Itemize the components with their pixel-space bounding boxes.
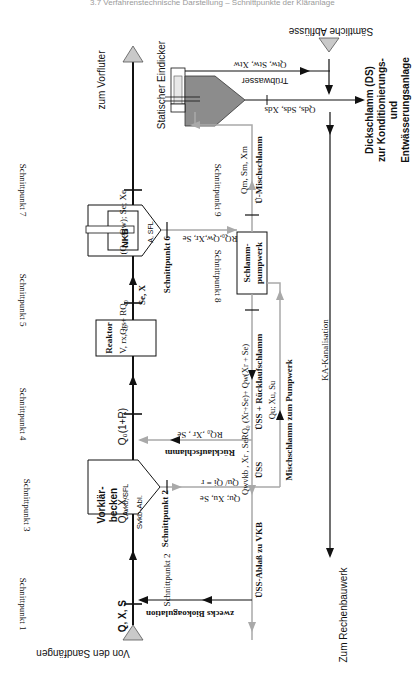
secondary-clarifier-area-label: A, SFL [147,221,154,243]
flow-return-plus-label: RQ₀ (Xr+Se)+ Qw(Xr + Se) [240,344,250,440]
arrow-down-icon [326,548,334,558]
schnittpunkt-2-bottom-label: Schnittpunkt 2 [162,554,172,607]
outlet-receiving-water-arrow-icon [123,46,143,62]
primary-clarifier-label-1: Vorklär- [96,486,107,523]
flow-mixed-to-pump-label: Mischschlamm zum Pumpwerk [284,359,294,481]
primary-clarifier-label-2: becken [108,488,119,522]
arrow-up-icon [129,375,137,385]
flow-return-sludge-label: Rücklaufschlamm [165,448,236,458]
arrow-down-icon [325,85,333,95]
flow-uess-return-label: ÜSS + Rücklaufschlamm [254,333,264,430]
flow-qu-ratio-label: Qu/ Qi = r [201,478,238,488]
flow-qu-xu-label: Qu; Xu, Su [267,380,277,419]
thick-sludge-label-3: und [388,101,399,119]
page-header-fragment: 3.7 Verfahrenstechnische Darstellung – S… [90,0,335,7]
flow-q0-1r-label: Q₀(1+R) [117,408,128,445]
schnittpunkt-8-label: Schnittpunkt 8 [213,250,223,303]
schnittpunkt-5-label: Schnittpunkt 5 [18,274,28,327]
flow-biocoagulation-label: zwecks Biokoagulation [146,609,234,619]
sludge-pump-label-1: Schlamm- [242,244,252,283]
static-thickener-unit [165,68,245,126]
process-flow-diagram: 3.7 Verfahrenstechnische Darstellung – S… [0,0,413,677]
inlet-all-drains-label: Sämtliche Abflüsse [288,26,373,37]
schnittpunkt-4-label: Schnittpunkt 4 [18,388,28,441]
schnittpunkt-6-label: Schnittpunkt 6 [162,236,172,294]
flow-uess-outlet-label: ÜSS-Ablaß zu VKB [254,522,264,598]
flow-qm-label: Qm, Sm, Xm [239,146,249,194]
arrow-up-icon [129,550,137,560]
schnittpunkt-3-label: Schnittpunkt 3 [22,479,32,532]
outlet-receiving-water-label: zum Vorfluter [96,50,107,110]
schnittpunkt-2-label: Schnittpunkt 2 [160,490,170,548]
flow-svkb-label: Svkb-Abl. [135,495,144,529]
flow-qds-label: Qds, Sds, Xds [264,105,316,115]
reactor-label: Reaktor [104,322,114,354]
flow-u-mixed-label: Ü-Mischschlamm [254,136,264,204]
flow-reactor-out-label: Q₀ + RQ₀ [118,300,128,335]
schnittpunkt-1-label: Schnittpunkt 1 [18,578,28,631]
flow-qtw-label: Qtw, Stw, Xtw [233,60,286,70]
thick-sludge-label-1: Dickschlamm (DS) [364,66,375,154]
flow-se-x-label: Se, X [137,285,147,306]
inlet-all-drains-arrow-icon [319,38,339,52]
schnittpunkt-7-label: Schnittpunkt 7 [18,164,28,217]
arrow-up-icon [129,275,137,285]
flow-qwvkb-label: Qwvkb , Xr , Se [240,440,250,495]
flow-effluent-label: (Q₀ –Qw); Se; Xe [118,190,128,254]
inlet-sand-label: Von den Sandfängen [36,648,129,659]
thick-sludge-label-4: Entwässerungsanlage [400,57,411,163]
sludge-pump-label-2: pumpwerk [254,242,264,284]
thick-sludge-label-2: zur Konditionierungs- [376,58,387,162]
flow-return-sludge-vals-label: RQ₀ ,Xr , Se [177,430,222,440]
flow-uess-label: ÜSS [254,462,264,479]
outlet-screen-building-label: Zum Rechenbauwerk [338,566,349,662]
flow-nkb-out-label: RQ₀,Qw,Xr, Se [182,234,237,244]
arrow-right-icon [300,67,310,75]
arrow-down-icon [326,125,334,135]
flow-truebwasser-label: Trübwasser [242,76,289,86]
flow-ka-kanalisation-label: KA-Kanalisation [320,319,330,381]
primary-clarifier-label-3: Avkb, SFL [122,484,129,516]
schnittpunkt-9-label: Schnittpunkt 9 [213,164,223,217]
thickener-label: Statischer Eindicker [156,40,167,129]
flow-qxs-label: Q, X, S [117,600,128,633]
flow-qu-xu-se-label: Qu; Xu, Se [200,494,240,504]
